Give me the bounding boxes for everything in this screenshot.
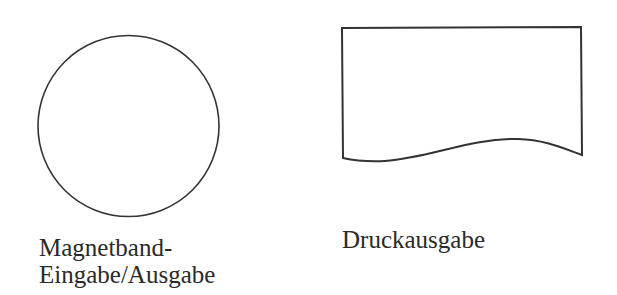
print-output-label: Druckausgabe <box>342 226 485 253</box>
magnetic-tape-label: Magnetband- Eingabe/Ausgabe <box>39 234 215 288</box>
magnetic-tape-symbol <box>38 36 219 217</box>
magnetic-tape-label-line-1: Magnetband- <box>39 234 215 261</box>
magnetic-tape-label-line-2: Eingabe/Ausgabe <box>39 261 215 288</box>
print-output-symbol <box>342 27 582 161</box>
print-output-label-line-1: Druckausgabe <box>342 226 485 253</box>
